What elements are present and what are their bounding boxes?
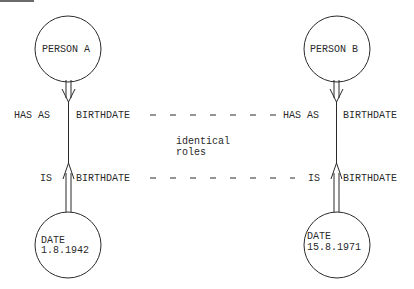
date-b-label-line2: 15.8.1971	[307, 242, 361, 253]
date-b-label-line1: DATE	[307, 231, 331, 242]
left-has-as-label: HAS AS	[14, 110, 50, 121]
left-is-role-label: BIRTHDATE	[76, 173, 130, 184]
left-has-as-role-label: BIRTHDATE	[76, 110, 130, 121]
right-has-as-role-label: BIRTHDATE	[343, 110, 397, 121]
left-is-arrow	[63, 158, 74, 212]
right-is-label: IS	[308, 173, 320, 184]
person-a-label: PERSON A	[42, 44, 90, 55]
right-has-as-label: HAS AS	[283, 110, 319, 121]
person-b-label: PERSON B	[310, 44, 358, 55]
diagram-canvas: PERSON A PERSON B DATE 1.8.1942 DATE 15.…	[0, 0, 414, 289]
right-is-role-label: BIRTHDATE	[343, 173, 397, 184]
date-a-label-line2: 1.8.1942	[41, 245, 89, 256]
right-is-arrow	[331, 158, 342, 212]
left-is-label: IS	[40, 173, 52, 184]
left-has-as-arrow	[62, 80, 75, 158]
right-has-as-arrow	[330, 80, 343, 158]
annotation-line2: roles	[176, 147, 206, 158]
annotation-line1: identical	[176, 136, 230, 147]
